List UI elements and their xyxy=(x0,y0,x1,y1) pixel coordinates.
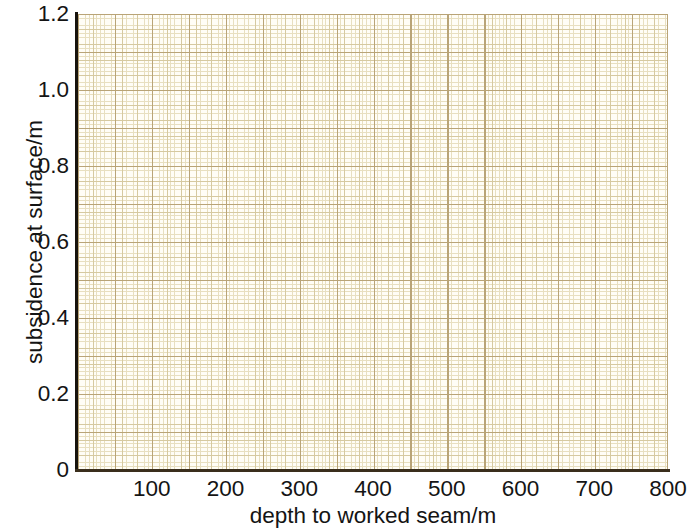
grid-minor-lines xyxy=(78,14,668,470)
plot-area xyxy=(78,14,668,470)
x-tick-label-text: 600 xyxy=(502,478,540,501)
plot-right-edge xyxy=(667,14,668,470)
x-tick-label-text: 700 xyxy=(575,478,613,501)
x-tick-label-text: 300 xyxy=(280,478,318,501)
x-axis-title: depth to worked seam/m xyxy=(78,505,668,528)
grid-major-lines xyxy=(78,14,668,470)
x-tick-label-text: 100 xyxy=(133,478,171,501)
plot-top-edge xyxy=(78,14,668,15)
x-tick-label-text: 400 xyxy=(354,478,392,501)
x-tick-label-text: 800 xyxy=(649,478,687,501)
grid-medium-lines xyxy=(78,14,668,470)
y-tick-label-text: 0 xyxy=(56,459,69,482)
y-axis-spine xyxy=(75,12,78,472)
y-axis-title: subsidence at surface/m xyxy=(22,14,48,470)
x-tick-label-text: 500 xyxy=(428,478,466,501)
x-axis-spine xyxy=(75,469,670,472)
x-tick-label-text: 200 xyxy=(207,478,245,501)
chart-figure: 00.20.40.60.81.01.2 10020030040050060070… xyxy=(0,0,698,531)
